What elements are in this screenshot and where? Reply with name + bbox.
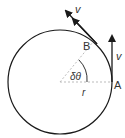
- label-velocity-a: v: [116, 50, 123, 62]
- circular-motion-diagram: B A v v δθ r: [0, 0, 125, 138]
- label-point-b: B: [83, 40, 90, 52]
- label-radius: r: [82, 87, 86, 98]
- label-point-a: A: [114, 79, 122, 91]
- label-angle: δθ: [70, 71, 82, 82]
- label-velocity-b: v: [75, 3, 82, 15]
